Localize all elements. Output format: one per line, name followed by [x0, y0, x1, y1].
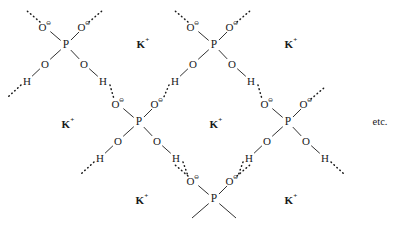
bond-p-o-p-top-right-lower-left [198, 50, 209, 60]
atom-oxygen-p-mid-right-upper-left: O⊖ [261, 98, 274, 110]
hydrogen-bond-1 [163, 85, 169, 99]
bond-o-h-p-top-right-left [180, 69, 188, 76]
atom-oxygen-p-top-right-upper-right: O⊖ [226, 21, 239, 33]
atom-oxygen-p-top-left-upper-left: O⊖ [39, 21, 52, 33]
ion-potassium-k5: K+ [136, 194, 149, 206]
hydrogen-bond-6 [81, 162, 94, 174]
ion-potassium-k4: K+ [210, 118, 223, 130]
hydrogen-bond-5 [8, 85, 21, 97]
bond-o-h-p-top-right-right [237, 69, 246, 77]
atom-hydrogen-p-top-right-right: H [247, 76, 255, 87]
ion-potassium-k3: K+ [62, 118, 75, 130]
atom-oxygen-p-top-left-lower-left: O [41, 59, 49, 70]
atom-phosphorus-p-top-right: P [211, 39, 217, 51]
atom-oxygen-p-mid-center-lower-right: O [153, 136, 161, 147]
atom-phosphorus-p-bottom-center: P [211, 193, 217, 205]
bond-p-o-p-top-left-upper-right [71, 32, 79, 40]
bond-p-o-p-top-right-lower-right [219, 50, 227, 59]
bond-p-o-p-top-right-upper-right [219, 32, 227, 40]
atom-oxygen-p-top-left-upper-right: O⊖ [78, 21, 91, 33]
atom-hydrogen-p-mid-right-left: H [245, 153, 253, 164]
bond-p-o-p-top-right-upper-left [198, 32, 208, 41]
bond-o-h-p-mid-center-left [105, 146, 113, 153]
bond-p-o-p-mid-center-lower-right [144, 127, 152, 136]
atom-oxygen-p-bottom-center-upper-right: O⊖ [226, 175, 239, 187]
bond-p-o-p-mid-center-lower-left [123, 127, 134, 137]
bond-o-h-p-mid-right-right [311, 146, 320, 154]
bond-o-h-p-top-left-left [32, 69, 40, 76]
bond-o-h-p-mid-center-right [162, 146, 171, 154]
atom-oxygen-p-mid-right-lower-right: O [302, 136, 310, 147]
bond-p-o-p-mid-right-lower-right [293, 127, 301, 136]
ion-potassium-k6: K+ [285, 194, 298, 206]
chemical-structure-figure: PO⊖O⊖OOHHPO⊖O⊖OOHHPO⊖O⊖OOHHPO⊖O⊖OOHHPO⊖O… [0, 0, 403, 228]
bond-p-open-right-p-bottom-center [219, 204, 236, 218]
bond-p-o-p-mid-right-upper-left [272, 109, 282, 118]
hydrogen-bond-2 [258, 85, 262, 99]
ion-potassium-k2: K+ [285, 38, 298, 50]
bond-p-o-p-top-left-upper-left [50, 32, 60, 41]
atom-hydrogen-p-mid-center-right: H [172, 153, 180, 164]
lone-pair-tail-3 [237, 10, 251, 22]
bond-p-o-p-top-left-lower-right [71, 50, 79, 59]
bond-o-h-p-top-left-right [89, 69, 98, 77]
bond-p-o-p-bottom-center-upper-left [198, 186, 208, 195]
atom-oxygen-p-top-right-lower-left: O [189, 59, 197, 70]
atom-hydrogen-p-top-left-right: H [99, 76, 107, 87]
bond-p-o-p-mid-right-lower-left [272, 127, 283, 137]
atom-oxygen-p-mid-right-upper-right: O⊖ [300, 98, 313, 110]
bond-p-open-left-p-bottom-center [192, 204, 209, 218]
hydrogen-bond-7 [331, 162, 344, 174]
atom-phosphorus-p-top-left: P [63, 39, 69, 51]
atom-hydrogen-p-mid-right-right: H [321, 153, 329, 164]
atom-phosphorus-p-mid-center: P [136, 116, 142, 128]
bond-p-o-p-mid-center-upper-right [144, 109, 152, 117]
atom-hydrogen-p-top-right-left: H [171, 76, 179, 87]
bond-p-o-p-mid-center-upper-left [123, 109, 133, 118]
bond-o-h-p-mid-right-left [254, 146, 262, 153]
annotation-etc: etc. [373, 117, 388, 128]
atom-hydrogen-p-mid-center-left: H [96, 153, 104, 164]
atom-oxygen-p-mid-right-lower-left: O [263, 136, 271, 147]
atom-oxygen-p-mid-center-lower-left: O [114, 136, 122, 147]
atom-phosphorus-p-mid-right: P [285, 116, 291, 128]
ion-potassium-k1: K+ [137, 38, 150, 50]
bond-p-o-p-top-left-lower-left [50, 50, 61, 60]
lone-pair-tail-4 [311, 87, 325, 99]
atom-oxygen-p-mid-center-upper-left: O⊖ [112, 98, 125, 110]
atom-hydrogen-p-top-left-left: H [23, 76, 31, 87]
atom-oxygen-p-mid-center-upper-right: O⊖ [151, 98, 164, 110]
bond-p-o-p-mid-right-upper-right [293, 109, 301, 117]
bond-p-o-p-bottom-center-upper-right [219, 186, 227, 194]
atom-oxygen-p-top-right-upper-left: O⊖ [187, 21, 200, 33]
atom-oxygen-p-top-right-lower-right: O [228, 59, 236, 70]
hydrogen-bond-0 [110, 85, 114, 99]
atom-oxygen-p-top-left-lower-right: O [80, 59, 88, 70]
atom-oxygen-p-bottom-center-upper-left: O⊖ [187, 175, 200, 187]
structure-drawing-canvas [0, 0, 403, 228]
lone-pair-tail-1 [89, 10, 103, 22]
